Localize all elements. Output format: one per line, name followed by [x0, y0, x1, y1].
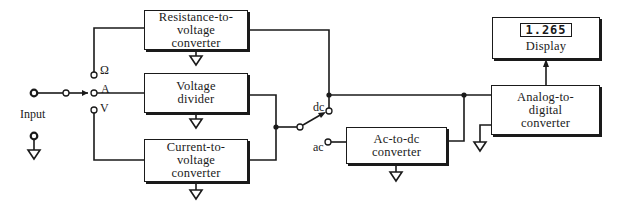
- block-text: voltage: [177, 24, 215, 37]
- ground-icon: [474, 142, 486, 151]
- display-block: 1.265 Display: [492, 17, 600, 59]
- switch-label-dc: dc: [313, 101, 324, 113]
- ground-icon: [190, 56, 202, 65]
- ground-icon: [28, 150, 40, 159]
- ground-icon: [190, 190, 202, 199]
- ground-icon: [190, 119, 202, 128]
- block-text: converter: [521, 117, 570, 130]
- block-text: converter: [172, 167, 221, 180]
- block-text: converter: [372, 146, 421, 159]
- resistance-to-voltage-block: Resistance-to- voltage converter: [144, 10, 248, 50]
- switch-label-amp: A: [101, 83, 110, 95]
- block-text: converter: [172, 37, 221, 50]
- current-to-voltage-block: Current-to- voltage converter: [144, 139, 248, 182]
- voltage-divider-block: Voltage divider: [144, 73, 248, 113]
- switch-label-volt: V: [100, 102, 109, 114]
- switch-label-ohm: Ω: [100, 64, 109, 76]
- switch-label-ac: ac: [313, 141, 324, 153]
- input-label: Input: [20, 108, 45, 120]
- block-text: Ac-to-dc: [373, 133, 419, 146]
- block-text: digital: [529, 104, 562, 117]
- block-text: Analog-to-: [517, 91, 574, 104]
- block-text: divider: [178, 93, 215, 106]
- display-readout: 1.265: [520, 23, 571, 37]
- analog-to-digital-block: Analog-to- digital converter: [491, 85, 600, 135]
- block-text: Resistance-to-: [159, 11, 233, 24]
- block-text: Display: [526, 40, 566, 53]
- ac-to-dc-block: Ac-to-dc converter: [346, 127, 447, 164]
- ground-icon: [390, 172, 402, 181]
